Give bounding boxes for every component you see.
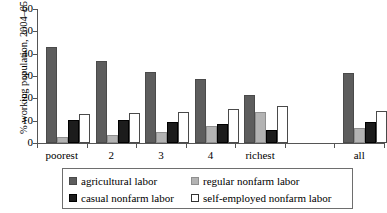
legend-swatch-icon [191, 194, 199, 202]
bars [343, 9, 387, 143]
bar-group [96, 9, 140, 143]
y-tick: 10 [37, 121, 38, 122]
bar-group [145, 9, 189, 143]
chart-legend: agricultural labor regular nonfarm labor… [62, 168, 353, 209]
legend-item-casual-nonfarm-labor: casual nonfarm labor [69, 192, 191, 204]
x-tick-label: 2 [87, 149, 137, 162]
y-tick-label: 50 [22, 24, 33, 36]
bars [244, 9, 288, 143]
legend-row: casual nonfarm labor self-employed nonfa… [69, 189, 347, 206]
x-tick-mark [384, 143, 385, 148]
legend-label: casual nonfarm labor [81, 192, 174, 204]
legend-swatch-icon [191, 177, 199, 185]
legend-label: agricultural labor [81, 175, 157, 187]
y-tick-label: 10 [22, 114, 33, 126]
x-tick-mark [87, 143, 88, 148]
y-tick-label: 30 [22, 69, 33, 81]
y-tick-mark [33, 98, 38, 99]
bars [96, 9, 140, 143]
bar [195, 79, 206, 143]
bar [266, 130, 277, 143]
bar [96, 61, 107, 143]
x-tick-mark [186, 143, 187, 148]
y-tick-label: 40 [22, 47, 33, 59]
bar [57, 137, 68, 143]
bar [118, 120, 129, 143]
bar [217, 124, 228, 143]
y-tick-mark [33, 76, 38, 77]
bar [68, 120, 79, 143]
bar [343, 73, 354, 143]
y-tick-mark [33, 121, 38, 122]
x-tick-label: richest [235, 149, 285, 162]
bar-group [195, 9, 239, 143]
bar [354, 128, 365, 143]
y-tick-mark [33, 31, 38, 32]
legend-label: self-employed nonfarm labor [203, 192, 331, 204]
bar-group [46, 9, 90, 143]
bar-group [343, 9, 387, 143]
y-tick: 40 [37, 54, 38, 55]
y-tick: 50 [37, 31, 38, 32]
bar [178, 112, 189, 143]
x-tick-label: 4 [186, 149, 236, 162]
bar-group [244, 9, 288, 143]
x-tick-mark [334, 143, 335, 148]
bar [376, 111, 387, 143]
legend-label: regular nonfarm labor [203, 175, 300, 187]
x-tick-mark [136, 143, 137, 148]
bar [228, 109, 239, 143]
bars [46, 9, 90, 143]
x-tick-label: all [334, 149, 384, 162]
bar [79, 114, 90, 143]
bar [255, 112, 266, 143]
legend-row: agricultural labor regular nonfarm labor [69, 172, 347, 189]
bar [277, 106, 288, 143]
x-tick-label: poorest [37, 149, 87, 162]
y-tick: 20 [37, 98, 38, 99]
x-tick-mark [285, 143, 286, 148]
plot-area: 0102030405060 poorest234richestall [37, 9, 384, 143]
legend-swatch-icon [69, 194, 77, 202]
bar [206, 126, 217, 143]
y-tick: 30 [37, 76, 38, 77]
y-tick-mark [33, 54, 38, 55]
legend-item-agricultural-labor: agricultural labor [69, 175, 191, 187]
x-tick-mark [37, 143, 38, 148]
legend-swatch-icon [69, 177, 77, 185]
bar [145, 72, 156, 143]
y-tick-label: 60 [22, 2, 33, 14]
bar [365, 122, 376, 143]
bar [129, 113, 140, 143]
y-tick: 60 [37, 9, 38, 10]
x-tick-mark [235, 143, 236, 148]
legend-item-regular-nonfarm-labor: regular nonfarm labor [191, 175, 300, 187]
bar [107, 135, 118, 143]
bars [195, 9, 239, 143]
bar [167, 122, 178, 143]
bar [244, 95, 255, 143]
x-axis-line [37, 143, 384, 144]
y-tick-label: 0 [28, 136, 34, 148]
bars [145, 9, 189, 143]
bar [156, 132, 167, 143]
legend-item-self-employed-nonfarm-labor: self-employed nonfarm labor [191, 192, 331, 204]
y-tick-mark [33, 9, 38, 10]
y-tick-label: 20 [22, 91, 33, 103]
x-tick-label: 3 [136, 149, 186, 162]
bar [46, 47, 57, 143]
